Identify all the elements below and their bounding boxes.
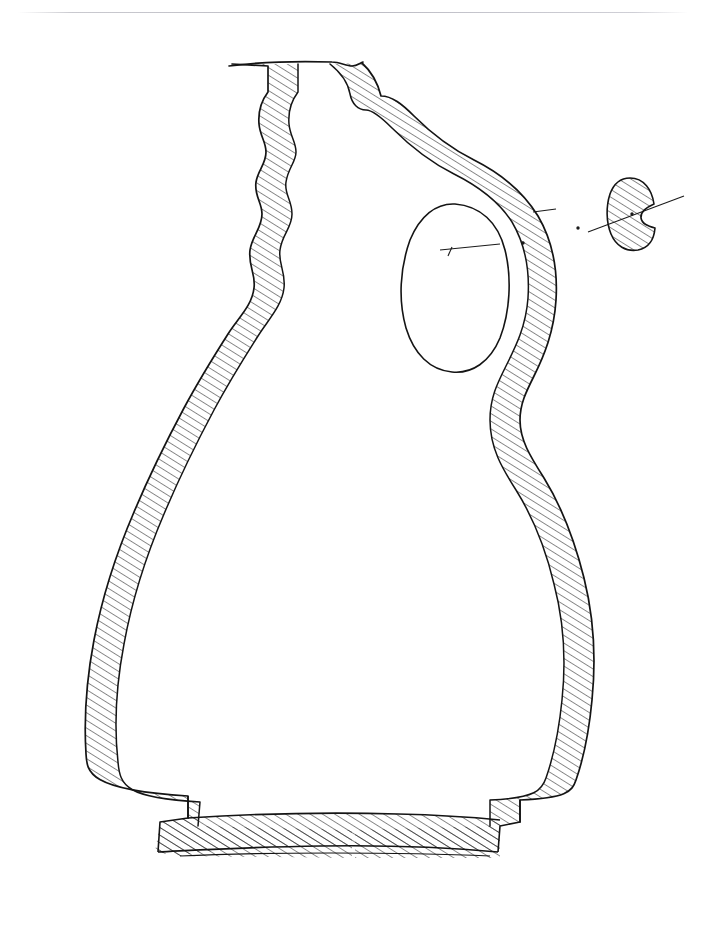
section-line-dot-1 <box>521 241 524 244</box>
handle-section-center-dot <box>630 212 633 215</box>
handle-void-outline <box>401 204 509 372</box>
handle-section-detail <box>588 170 684 265</box>
vessel-left-wall-section <box>20 40 420 890</box>
vessel-inner-profile-right <box>330 64 564 826</box>
vessel-section-figure <box>0 0 704 928</box>
handle-opening <box>401 204 509 372</box>
section-line-dot-2 <box>576 226 579 229</box>
vessel-right-wall-section <box>300 40 630 890</box>
section-line-segment-outer <box>533 209 556 212</box>
drawing-page <box>0 0 704 928</box>
